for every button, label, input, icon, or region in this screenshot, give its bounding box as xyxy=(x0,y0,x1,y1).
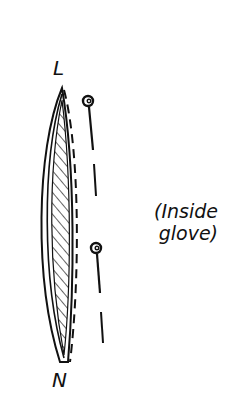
label-bottom: N xyxy=(52,370,67,390)
pin-icon xyxy=(91,243,101,293)
annotation-note: (Inside glove) xyxy=(118,200,218,244)
label-top: L xyxy=(53,58,64,78)
lining-piece xyxy=(41,88,72,362)
pin-icon xyxy=(83,96,93,150)
annotation-line-1: (Inside xyxy=(118,200,218,222)
annotation-line-2: glove) xyxy=(118,222,218,244)
